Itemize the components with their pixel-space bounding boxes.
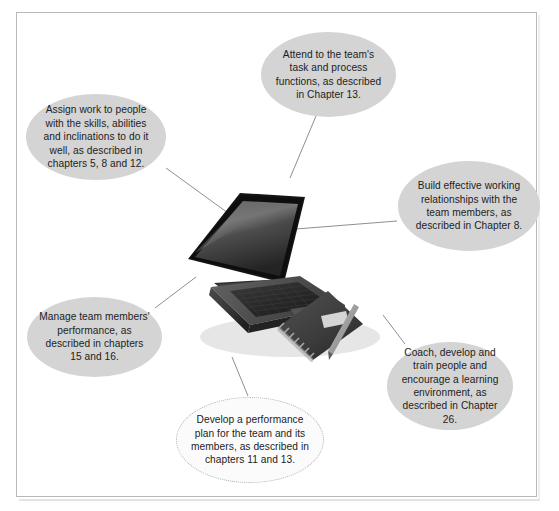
bubble-build-relationships-text: Build effective working relationships wi…	[398, 179, 540, 233]
bubble-build-relationships: Build effective working relationships wi…	[398, 161, 540, 251]
figure-root: Assign work to people with the skills, a…	[0, 0, 559, 511]
bubble-assign-work-text: Assign work to people with the skills, a…	[26, 103, 166, 170]
bubble-attend-team-text: Attend to the team's task and process fu…	[261, 48, 396, 102]
bubble-develop-plan-text: Develop a performance plan for the team …	[177, 413, 323, 467]
frame-shadow-right	[538, 15, 540, 500]
bubble-attend-team: Attend to the team's task and process fu…	[261, 32, 396, 117]
bubble-coach-develop: Coach, develop and train people and enco…	[387, 342, 513, 430]
laptop-notebook-photo	[178, 187, 388, 362]
bubble-coach-develop-text: Coach, develop and train people and enco…	[387, 346, 513, 426]
frame-shadow-bottom	[19, 499, 540, 501]
bubble-manage-performance-text: Manage team members' performance, as des…	[27, 310, 162, 364]
bubble-manage-performance: Manage team members' performance, as des…	[27, 297, 162, 377]
bubble-assign-work: Assign work to people with the skills, a…	[26, 94, 166, 180]
bubble-develop-plan: Develop a performance plan for the team …	[176, 397, 324, 483]
